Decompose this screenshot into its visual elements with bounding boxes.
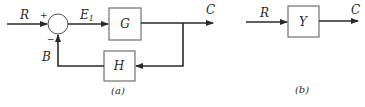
feedback-branch	[136, 23, 183, 66]
caption-a: (a)	[111, 85, 125, 96]
diagram-a: R + − E1 G C H B (a)	[7, 3, 215, 96]
block-y-label: Y	[299, 15, 308, 29]
block-g-label: G	[120, 17, 130, 31]
caption-b: (b)	[295, 84, 309, 95]
plus-sign: +	[40, 10, 48, 20]
error-label: E1	[79, 8, 94, 23]
diagram-b: R Y C (b)	[246, 3, 360, 95]
output-label-c-b: C	[351, 3, 360, 17]
feedback-label-b: B	[41, 50, 51, 64]
minus-sign: −	[47, 34, 55, 44]
input-label-r: R	[19, 8, 29, 22]
output-label-c: C	[206, 3, 215, 17]
summing-junction	[48, 14, 68, 34]
block-diagram-canvas: R + − E1 G C H B (a) R Y C (b)	[0, 0, 365, 107]
block-h-label: H	[113, 59, 125, 73]
feedback-arrow-b	[58, 35, 104, 66]
input-label-r-b: R	[259, 6, 269, 20]
